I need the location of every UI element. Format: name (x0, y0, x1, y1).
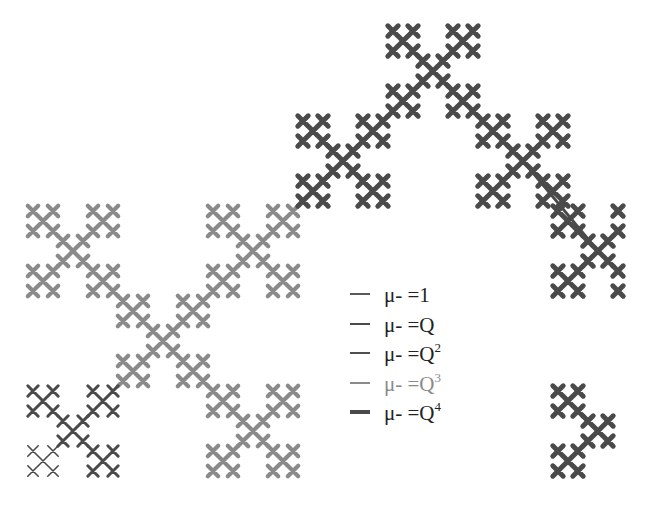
cluster-dark-right (553, 206, 623, 296)
legend-swatch-mu-q3 (350, 382, 370, 385)
cross-group (238, 416, 268, 446)
cross-group (268, 446, 298, 476)
cross-group (268, 386, 298, 416)
cluster-gray-center (118, 296, 208, 386)
cross-group (388, 26, 418, 56)
cross-group (148, 326, 178, 356)
cross-group (553, 266, 583, 296)
fractal-diagram (0, 0, 655, 512)
cross-group (118, 356, 148, 386)
cross-group (298, 176, 328, 206)
cross-group (478, 176, 508, 206)
legend-item-mu-q2: μ- =Q2 (350, 339, 441, 367)
cross-group (88, 446, 118, 476)
cross-group (268, 266, 298, 296)
cross-group (298, 116, 328, 146)
cross-group (208, 386, 238, 416)
cross-group (208, 446, 238, 476)
legend-label: μ- =1 (384, 282, 430, 306)
cross-group (478, 116, 508, 146)
legend-swatch-mu-q2 (350, 352, 370, 355)
cluster-dark-bottom-right (553, 386, 613, 476)
legend-swatch-mu-1 (350, 293, 370, 295)
cross-group (613, 266, 623, 296)
cross-group (58, 236, 88, 266)
cross-group (88, 266, 118, 296)
legend-swatch-mu-q4 (350, 410, 370, 414)
cross-group (178, 356, 208, 386)
cross-group (553, 446, 583, 476)
cross-group (448, 86, 478, 116)
cross-group (448, 26, 478, 56)
cluster-gray-top-right (208, 206, 298, 296)
cross-group (613, 206, 623, 236)
cross-group (358, 176, 388, 206)
cross-group (508, 146, 538, 176)
legend-label: μ- =Q (384, 312, 435, 336)
legend-label: μ- =Q2 (384, 341, 441, 365)
cross-group (88, 386, 118, 416)
cross-group (208, 206, 238, 236)
cross-group (28, 446, 58, 476)
legend-item-mu-q3: μ- =Q3 (350, 369, 441, 397)
cross-group (358, 116, 388, 146)
cluster-gray-top-left (28, 206, 118, 296)
legend-swatch-mu-q (350, 323, 370, 325)
cross-group (28, 386, 58, 416)
cross-group (328, 146, 358, 176)
cross-group (583, 236, 613, 266)
cross-group (553, 206, 583, 236)
cross-group (118, 296, 148, 326)
cross-group (88, 206, 118, 236)
cross-group (28, 266, 58, 296)
cross-group (268, 206, 298, 236)
cross-group (583, 416, 613, 446)
cross-group (178, 296, 208, 326)
cluster-dark-upper-left (298, 116, 388, 206)
cluster-dark-top (388, 26, 478, 116)
cluster-gray-bottom-right (208, 386, 298, 476)
cross-group (553, 386, 583, 416)
cluster-dark-bottom-left (28, 386, 118, 476)
cross-group (538, 176, 568, 206)
legend-item-mu-1: μ- =1 (350, 280, 430, 308)
cross-group (538, 116, 568, 146)
cross-group (388, 86, 418, 116)
legend-label: μ- =Q4 (384, 400, 441, 424)
cluster-dark-upper-right (478, 116, 568, 206)
cross-group (208, 266, 238, 296)
cross-group (418, 56, 448, 86)
legend-label: μ- =Q3 (384, 371, 441, 395)
cross-group (28, 206, 58, 236)
legend-item-mu-q: μ- =Q (350, 310, 435, 338)
legend-item-mu-q4: μ- =Q4 (350, 398, 441, 426)
cross-group (238, 236, 268, 266)
cross-group (58, 416, 88, 446)
